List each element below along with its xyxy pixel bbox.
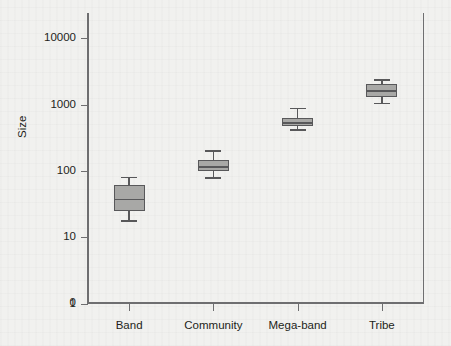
lower-whisker-cap: [121, 220, 137, 222]
lower-whisker-cap: [205, 177, 221, 179]
upper-whisker-cap: [121, 177, 137, 179]
x-axis-tick-label: Tribe: [322, 319, 442, 333]
x-axis-tick-mark: [382, 304, 383, 311]
median-line: [114, 199, 145, 201]
median-line: [198, 166, 229, 168]
plot-area: BandCommunityMega-bandTribe: [87, 13, 424, 303]
upper-whisker-stem: [297, 108, 299, 119]
right-spine: [423, 13, 424, 304]
y-axis-tick-mark: [81, 171, 88, 172]
y-axis-tick-label: 100: [57, 165, 76, 177]
y-axis-tick-mark: [81, 237, 88, 238]
y-axis-tick-label: 10000: [44, 32, 76, 44]
median-line: [366, 90, 397, 92]
y-axis-tick-mark: [81, 105, 88, 106]
lower-whisker-cap: [374, 103, 390, 105]
y-axis-tick-label: 10: [63, 231, 76, 243]
x-axis-tick-mark: [213, 304, 214, 311]
y-axis-tick-mark: [81, 304, 88, 305]
upper-whisker-cap: [205, 150, 221, 152]
x-axis-tick-mark: [129, 304, 130, 311]
x-axis-line: [87, 302, 424, 304]
lower-whisker-cap: [290, 129, 306, 131]
upper-whisker-cap: [374, 79, 390, 81]
interquartile-box: [114, 185, 145, 211]
x-axis-tick-mark: [298, 304, 299, 311]
y-axis-tick-labels: 1000010001001010: [0, 0, 76, 346]
chart-figure: Size 1000010001001010 BandCommunityMega-…: [0, 0, 451, 346]
y-axis-tick-mark: [81, 38, 88, 39]
y-axis-line: [87, 13, 89, 304]
y-axis-tick-label: 0: [70, 297, 76, 309]
y-axis-tick-label: 1000: [50, 99, 76, 111]
median-line: [282, 122, 313, 124]
upper-whisker-cap: [290, 108, 306, 110]
lower-whisker-stem: [128, 211, 130, 220]
